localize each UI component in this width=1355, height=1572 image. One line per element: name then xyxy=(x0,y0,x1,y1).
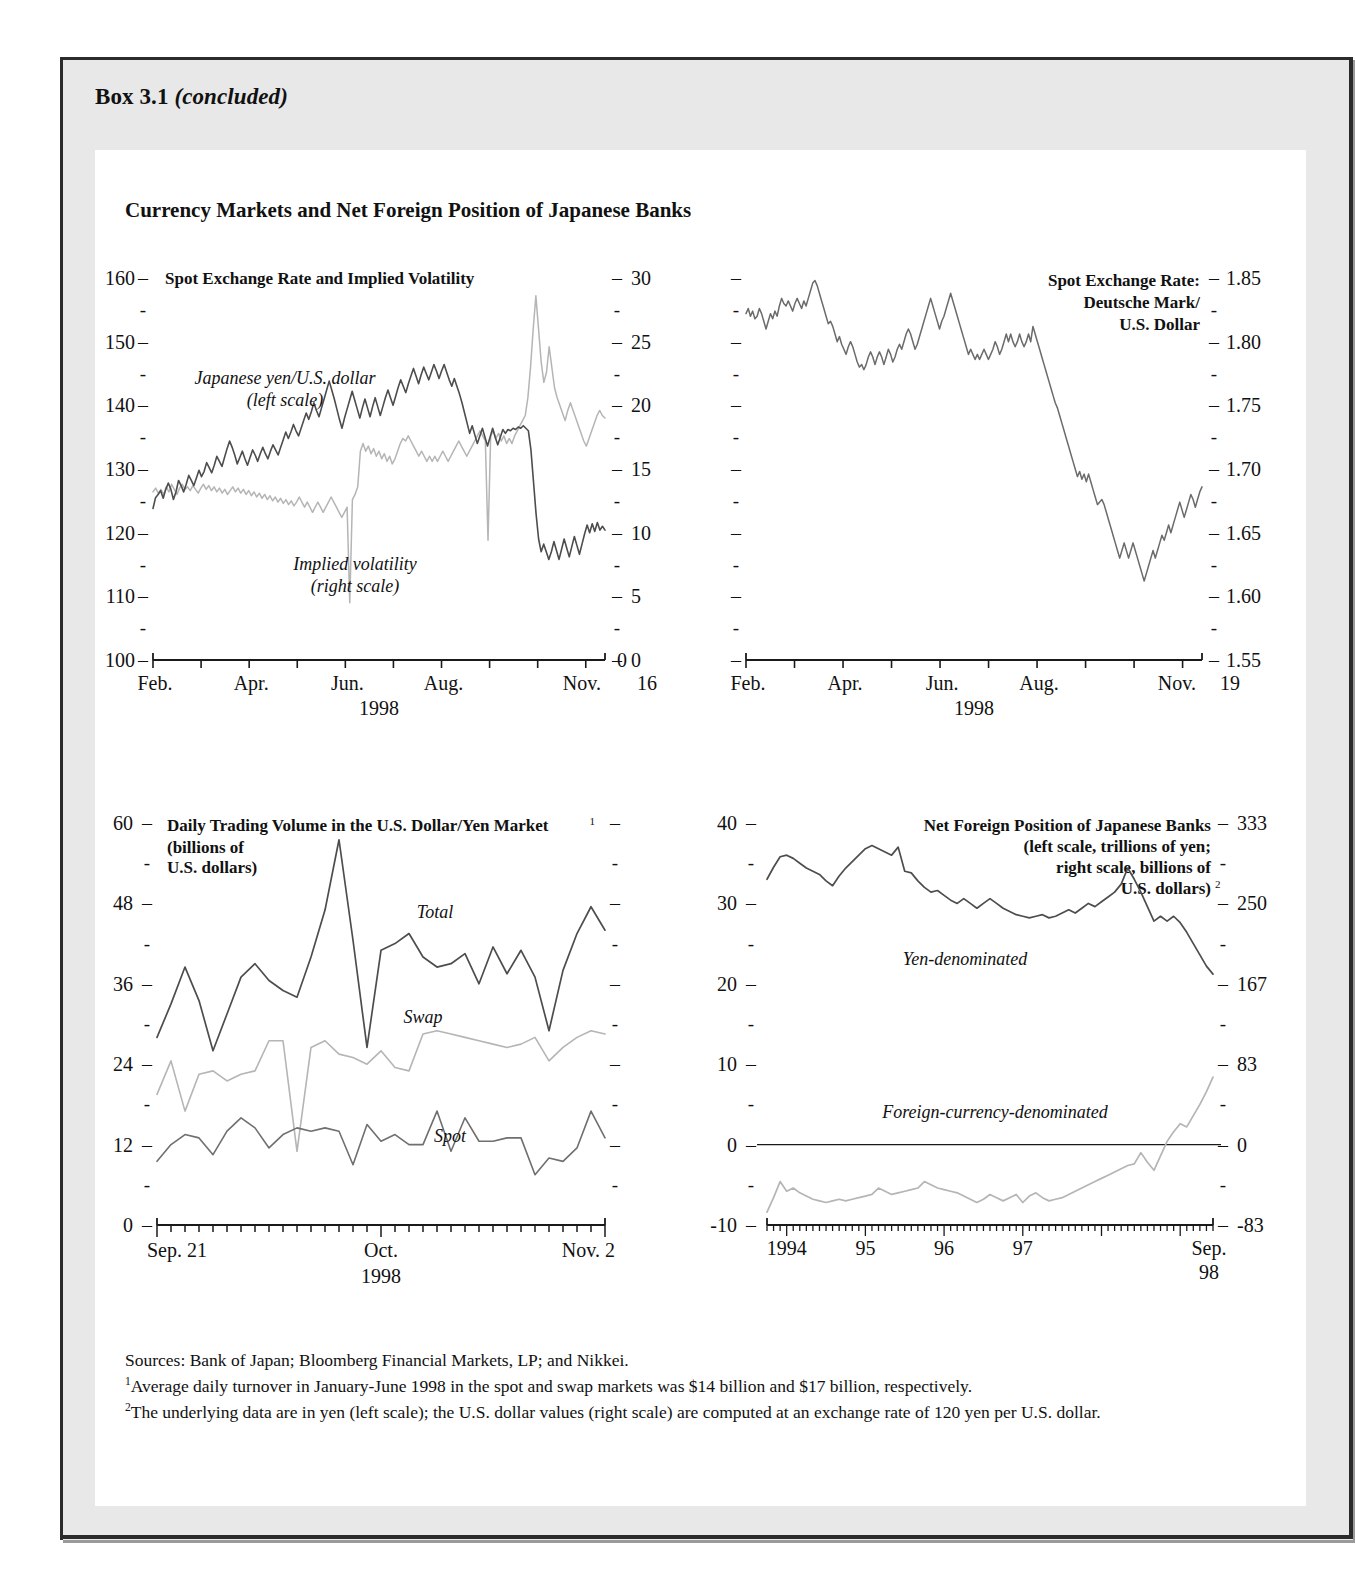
chart-title-line: Net Foreign Position of Japanese Banks xyxy=(924,816,1212,835)
legend-yen-dollar: Japanese yen/U.S. dollar xyxy=(195,368,377,388)
legend-spot: Spot xyxy=(434,1126,467,1146)
y-axis-right-tick-mark: – xyxy=(611,458,623,480)
y-axis-left-minor-tick: - xyxy=(144,1013,150,1034)
y-axis-left-tick-label: 48 xyxy=(113,892,133,914)
legend-implied-volatility: Implied volatility xyxy=(292,554,416,574)
y-axis-right-tick-mark: – xyxy=(609,1134,621,1156)
chart-3-canvas: 0–12––24––36––48––60––----------Sep. 21O… xyxy=(105,805,705,1315)
y-axis-left-tick-label: 10 xyxy=(717,1053,737,1075)
x-axis-end-label: Nov. 2 xyxy=(562,1239,615,1261)
x-axis-start-label: Sep. 21 xyxy=(147,1239,207,1262)
legend-yen-dollar-scale: (left scale) xyxy=(247,390,323,411)
y-axis-left-minor-tick: - xyxy=(733,426,739,447)
y-axis-left-minor-tick: - xyxy=(733,299,739,320)
y-axis-left-minor-tick: - xyxy=(144,1174,150,1195)
x-axis-tick-label: Apr. xyxy=(234,672,269,695)
series-yen-dollar xyxy=(153,365,605,560)
y-axis-left-minor-tick: - xyxy=(733,554,739,575)
y-axis-left-tick-mark: – xyxy=(141,1053,153,1075)
y-axis-left-minor-tick: - xyxy=(733,490,739,511)
y-axis-right-tick-mark: – xyxy=(1217,1214,1229,1236)
y-axis-left-tick-label: 140 xyxy=(105,394,135,416)
chart-subtitle-line: (billions of xyxy=(167,838,244,857)
y-axis-right-minor-tick: - xyxy=(612,1093,618,1114)
y-axis-left-tick-label: 36 xyxy=(113,973,133,995)
y-axis-right-tick-label: 1.85 xyxy=(1226,267,1261,289)
y-axis-left-tick-mark: – xyxy=(137,458,149,480)
y-axis-right-tick-mark: – xyxy=(611,331,623,353)
y-axis-left-tick-label: 20 xyxy=(717,973,737,995)
y-axis-left-tick-mark: – xyxy=(141,1214,153,1236)
x-axis-tick-label-end: Nov. xyxy=(1158,672,1196,694)
y-axis-left-tick-label: 30 xyxy=(717,892,737,914)
y-axis-left-tick-mark: – xyxy=(745,892,757,914)
chart-title-line: U.S. Dollar xyxy=(1119,315,1200,334)
chart-title-line: Spot Exchange Rate: xyxy=(1048,271,1200,290)
y-axis-right-tick-label: 15 xyxy=(631,458,651,480)
y-axis-left-minor-tick: - xyxy=(748,1013,754,1034)
box-status: (concluded) xyxy=(174,84,288,109)
box-shadow-right xyxy=(1349,60,1353,1539)
y-axis-left-tick-mark: – xyxy=(137,394,149,416)
sources-block: Sources: Bank of Japan; Bloomberg Financ… xyxy=(125,1348,1295,1424)
x-axis-tick-label: 1994 xyxy=(767,1237,807,1259)
y-axis-left-tick-mark: – xyxy=(141,812,153,834)
y-axis-left-tick-mark: – xyxy=(137,649,149,671)
y-axis-left-tick-mark: – xyxy=(730,267,742,289)
y-axis-right-tick-mark: – xyxy=(1208,585,1220,607)
y-axis-right-tick-mark: – xyxy=(1208,331,1220,353)
chart-title-superscript: 1 xyxy=(590,815,596,827)
y-axis-right-tick-label: 1.75 xyxy=(1226,394,1261,416)
y-axis-right-tick-mark: – xyxy=(1217,973,1229,995)
x-axis-year-label: 1998 xyxy=(359,697,399,719)
y-axis-right-minor-tick: - xyxy=(1211,617,1217,638)
chart-title-line: right scale, billions of xyxy=(1056,858,1211,877)
footnote-1-text: Average daily turnover in January-June 1… xyxy=(131,1376,972,1396)
y-axis-right-tick-label: 30 xyxy=(631,267,651,289)
y-axis-left-minor-tick: - xyxy=(748,1174,754,1195)
y-axis-left-tick-mark: – xyxy=(730,331,742,353)
y-axis-left-tick-label: 40 xyxy=(717,812,737,834)
series-swap xyxy=(157,1031,605,1152)
y-axis-left-tick-mark: – xyxy=(745,1134,757,1156)
chart-daily-trading-volume: 0–12––24––36––48––60––----------Sep. 21O… xyxy=(105,805,705,1315)
x-axis-year-label: 1998 xyxy=(361,1265,401,1287)
y-axis-right-tick-label: 0 xyxy=(631,649,641,671)
chart-title-line: (left scale, trillions of yen; xyxy=(1024,837,1211,856)
y-axis-right-tick-mark: – xyxy=(609,973,621,995)
y-axis-left-tick-mark: – xyxy=(730,394,742,416)
y-axis-right-tick-label: 1.60 xyxy=(1226,585,1261,607)
y-axis-right-minor-tick: - xyxy=(614,363,620,384)
chart-spot-exchange-rate-implied-volatility: 100–110–120–130–140–150–160–------–0–5–1… xyxy=(105,260,705,730)
y-axis-left-tick-label: 150 xyxy=(105,331,135,353)
y-axis-left-tick-mark: – xyxy=(730,458,742,480)
y-axis-left-minor-tick: - xyxy=(748,933,754,954)
y-axis-left-minor-tick: - xyxy=(140,299,146,320)
x-axis-tick-label: Aug. xyxy=(424,672,463,695)
y-axis-right-tick-label: 1.65 xyxy=(1226,522,1261,544)
y-axis-right-minor-tick: - xyxy=(1220,1013,1226,1034)
y-axis-left-tick-mark: – xyxy=(137,331,149,353)
y-axis-right-tick-label: 1.70 xyxy=(1226,458,1261,480)
y-axis-right-minor-tick: - xyxy=(1211,363,1217,384)
y-axis-right-tick-label: 83 xyxy=(1237,1053,1257,1075)
y-axis-left-tick-label: 130 xyxy=(105,458,135,480)
x-axis-tick-label: Feb. xyxy=(138,672,173,694)
document-page: Box 3.1 (concluded) Currency Markets and… xyxy=(0,0,1355,1572)
chart-4-canvas: -10––-830––010––8320––16730––25040––333-… xyxy=(695,805,1295,1315)
footnote-2: 2The underlying data are in yen (left sc… xyxy=(125,1399,1295,1425)
y-axis-left-minor-tick: - xyxy=(748,1093,754,1114)
y-axis-right-minor-tick: - xyxy=(1220,933,1226,954)
footnote-2-text: The underlying data are in yen (left sca… xyxy=(131,1401,1101,1421)
y-axis-left-minor-tick: - xyxy=(144,1093,150,1114)
y-axis-left-tick-mark: – xyxy=(745,1214,757,1236)
box-shadow-bottom xyxy=(63,1535,1353,1539)
x-axis-tick-label: Jun. xyxy=(331,672,364,694)
y-axis-left-tick-label: 24 xyxy=(113,1053,133,1075)
y-axis-left-minor-tick: - xyxy=(748,852,754,873)
y-axis-right-tick-label: -83 xyxy=(1237,1214,1264,1236)
y-axis-right-tick-mark: – xyxy=(1208,649,1220,671)
y-axis-left-tick-label: 110 xyxy=(106,585,135,607)
legend-yen-denominated: Yen-denominated xyxy=(903,949,1028,969)
y-axis-right-minor-tick: - xyxy=(1211,299,1217,320)
